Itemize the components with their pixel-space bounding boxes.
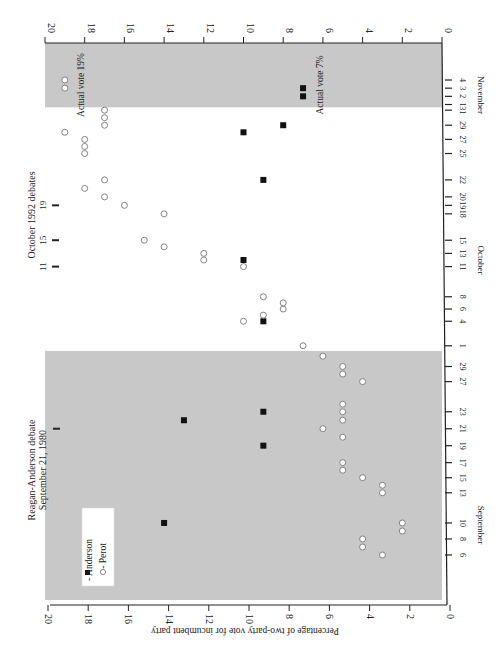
perot-point — [102, 107, 108, 113]
svg-text:6: 6 — [324, 614, 335, 619]
svg-text:10: 10 — [245, 23, 256, 33]
svg-text:4: 4 — [458, 78, 467, 82]
svg-text:October 1992 debates: October 1992 debates — [26, 171, 37, 258]
svg-text:4: 4 — [365, 614, 376, 619]
perot-point — [320, 353, 326, 359]
svg-text:20: 20 — [46, 23, 57, 33]
svg-text:September 21, 1980: September 21, 1980 — [37, 430, 48, 510]
svg-text:12: 12 — [205, 23, 216, 33]
anderson-point — [300, 85, 306, 91]
svg-text:6: 6 — [458, 553, 467, 557]
svg-text:- Anderson: - Anderson — [84, 539, 94, 581]
perot-point — [161, 211, 167, 217]
svg-text:13: 13 — [458, 249, 467, 257]
perot-point — [320, 426, 326, 432]
perot-point — [379, 552, 385, 558]
anderson-point — [241, 257, 247, 263]
perot-point — [379, 490, 385, 496]
anderson-point — [280, 122, 286, 128]
svg-text:13: 13 — [458, 489, 467, 497]
svg-text:November: November — [476, 76, 486, 114]
svg-text:6: 6 — [324, 28, 335, 33]
perot-point — [102, 194, 108, 200]
perot-point — [340, 364, 346, 370]
perot-point — [280, 300, 286, 306]
perot-point — [399, 520, 405, 526]
svg-text:4: 4 — [458, 319, 467, 323]
svg-text:20: 20 — [43, 614, 54, 624]
svg-text:Actual vote 19%: Actual vote 19% — [76, 53, 86, 117]
svg-text:September: September — [476, 506, 486, 545]
anderson-point — [300, 93, 306, 99]
perot-point — [399, 528, 405, 534]
svg-text:17: 17 — [458, 459, 467, 467]
svg-text:16: 16 — [125, 23, 136, 33]
perot-point — [360, 475, 366, 481]
svg-text:20: 20 — [458, 193, 467, 201]
perot-point — [141, 237, 147, 243]
anderson-point — [161, 520, 167, 526]
svg-text:2: 2 — [405, 614, 416, 619]
perot-point — [280, 306, 286, 312]
perot-point — [82, 136, 88, 142]
svg-text:19: 19 — [38, 200, 48, 210]
svg-text:12: 12 — [204, 614, 215, 624]
svg-text:6: 6 — [458, 307, 467, 311]
anderson-point — [241, 129, 247, 135]
perot-point — [260, 312, 266, 318]
perot-point — [340, 434, 346, 440]
svg-text:10: 10 — [458, 519, 467, 527]
svg-text:Actual vote 7%: Actual vote 7% — [315, 55, 325, 114]
svg-text:15: 15 — [38, 235, 48, 245]
perot-point — [82, 185, 88, 191]
perot-point — [201, 250, 207, 256]
perot-point — [82, 151, 88, 157]
svg-text:2: 2 — [458, 94, 467, 98]
perot-point — [340, 371, 346, 377]
anderson-point — [260, 409, 266, 415]
svg-text:15: 15 — [458, 236, 467, 244]
perot-point — [300, 343, 306, 349]
perot-point — [241, 318, 247, 324]
legend-perot-marker — [100, 569, 105, 574]
svg-text:18: 18 — [86, 23, 97, 33]
anderson-point — [260, 443, 266, 449]
svg-text:Reagan-Anderson debate: Reagan-Anderson debate — [26, 419, 37, 520]
svg-text:27: 27 — [458, 135, 467, 143]
svg-text:3: 3 — [458, 86, 467, 90]
svg-text:October: October — [476, 246, 486, 275]
svg-text:19: 19 — [458, 442, 467, 450]
svg-text:1: 1 — [458, 103, 467, 107]
perot-point — [161, 244, 167, 250]
svg-text:18: 18 — [83, 614, 94, 624]
perot-point — [360, 544, 366, 550]
rotated-scatter-chart: 0022446688101012121414161618182020681013… — [0, 0, 504, 654]
svg-text:8: 8 — [284, 28, 295, 33]
svg-text:14: 14 — [164, 614, 175, 624]
svg-text:11: 11 — [38, 262, 48, 271]
perot-point — [379, 482, 385, 488]
perot-point — [340, 417, 346, 423]
svg-text:16: 16 — [123, 614, 134, 624]
perot-point — [121, 202, 127, 208]
perot-point — [62, 129, 68, 135]
svg-text:29: 29 — [458, 363, 467, 371]
svg-text:0: 0 — [443, 28, 454, 33]
svg-text:29: 29 — [458, 121, 467, 129]
anderson-point — [260, 318, 266, 324]
svg-text:4: 4 — [364, 28, 375, 33]
svg-text:8: 8 — [458, 295, 467, 299]
perot-point — [102, 177, 108, 183]
svg-text:11: 11 — [458, 263, 467, 271]
svg-text:2: 2 — [403, 28, 414, 33]
perot-point — [360, 536, 366, 542]
svg-text:31: 31 — [458, 106, 467, 114]
svg-text:1: 1 — [458, 344, 467, 348]
svg-text:27: 27 — [458, 378, 467, 386]
perot-point — [340, 460, 346, 466]
svg-text:14: 14 — [165, 23, 176, 33]
svg-text:22: 22 — [458, 176, 467, 184]
svg-text:8: 8 — [284, 614, 295, 619]
perot-point — [82, 143, 88, 149]
svg-text:0: 0 — [445, 614, 456, 619]
